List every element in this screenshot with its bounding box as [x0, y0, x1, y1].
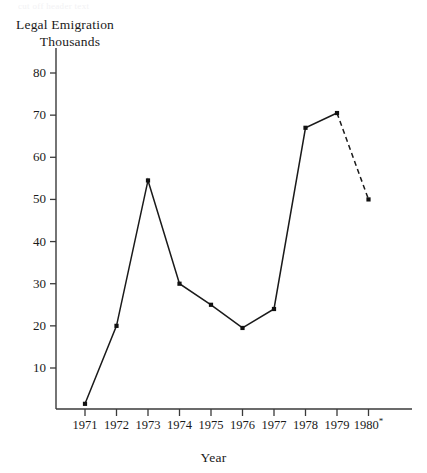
data-point-marker — [303, 126, 307, 130]
y-tick-label: 70 — [16, 108, 46, 121]
data-point-marker — [177, 282, 181, 286]
y-tick-label: 10 — [16, 361, 46, 374]
plot-area — [0, 0, 427, 473]
y-axis-ticks — [50, 73, 56, 368]
data-point-marker — [146, 178, 150, 182]
data-point-marker — [114, 324, 118, 328]
data-point-marker — [83, 402, 87, 406]
projection-asterisk: * — [379, 416, 384, 426]
y-tick-label: 30 — [16, 277, 46, 290]
x-axis-title: Year — [0, 450, 427, 466]
data-series — [85, 113, 369, 404]
y-tick-label: 60 — [16, 150, 46, 163]
axes — [56, 48, 412, 409]
y-tick-label: 80 — [16, 66, 46, 79]
data-point-marker — [240, 326, 244, 330]
data-point-marker — [272, 307, 276, 311]
x-axis-ticks — [85, 409, 369, 416]
data-point-marker — [366, 197, 370, 201]
y-tick-label: 40 — [16, 235, 46, 248]
series-line-dashed-projection — [337, 113, 369, 199]
data-point-marker — [335, 111, 339, 115]
emigration-line-chart: cut off header text Legal Emigration Tho… — [0, 0, 427, 473]
series-line-solid — [85, 113, 337, 404]
y-tick-label: 50 — [16, 192, 46, 205]
data-point-marker — [209, 303, 213, 307]
x-tick-label: 1980* — [349, 419, 389, 432]
data-point-markers — [83, 111, 371, 406]
y-tick-label: 20 — [16, 319, 46, 332]
